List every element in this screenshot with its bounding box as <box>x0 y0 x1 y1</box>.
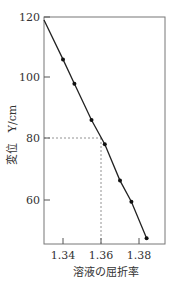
data-point <box>103 142 107 146</box>
dashed-guide <box>44 138 101 244</box>
x-tick-label: 1.36 <box>89 249 114 262</box>
x-axis-title: 溶液の屈折率 <box>73 265 139 279</box>
chart: 120 100 80 60 1.34 1.36 1.38 溶液の屈折率 変位 Y… <box>0 0 178 291</box>
x-tick-label: 1.34 <box>51 249 76 262</box>
data-line <box>44 20 147 238</box>
y-tick-label: 100 <box>19 71 40 84</box>
y-tick-label: 120 <box>19 11 40 24</box>
data-point <box>90 118 94 122</box>
data-point <box>145 236 149 240</box>
x-tick-label: 1.38 <box>127 249 152 262</box>
plot-frame <box>44 17 165 244</box>
data-point <box>72 82 76 86</box>
data-point <box>129 200 133 204</box>
y-axis <box>44 17 50 200</box>
y-tick-label: 80 <box>26 132 40 145</box>
data-point <box>61 57 65 61</box>
data-point <box>118 179 122 183</box>
y-tick-label: 60 <box>26 194 40 207</box>
y-axis-title: 変位 Y/cm <box>5 104 19 165</box>
